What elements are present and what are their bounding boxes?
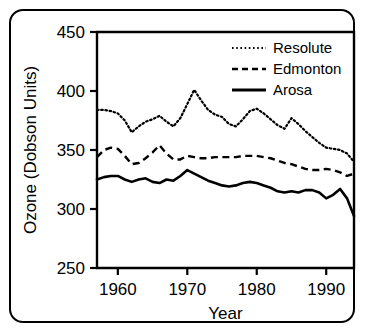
y-axis-tick-label: 400 [57, 82, 85, 101]
legend-label-resolute: Resolute [273, 39, 332, 56]
series-line-resolute [97, 90, 354, 162]
y-axis-title: Ozone (Dobson Units) [21, 66, 40, 234]
x-axis-tick-label: 1990 [307, 280, 345, 299]
x-axis-tick-label: 1960 [99, 280, 137, 299]
y-axis-tick-label: 450 [57, 23, 85, 42]
ozone-trend-chart: 2503003504004501960197019801990YearOzone… [0, 0, 366, 336]
series-line-arosa [97, 170, 354, 216]
y-axis-tick-label: 350 [57, 141, 85, 160]
x-axis-title: Year [208, 304, 243, 323]
legend-label-edmonton: Edmonton [273, 60, 341, 77]
y-axis-tick-label: 300 [57, 200, 85, 219]
x-axis-tick-label: 1980 [238, 280, 276, 299]
series-line-edmonton [97, 145, 354, 176]
legend-label-arosa: Arosa [273, 81, 313, 98]
chart-plot-area: 2503003504004501960197019801990YearOzone… [0, 0, 366, 336]
x-axis-tick-label: 1970 [168, 280, 206, 299]
y-axis-tick-label: 250 [57, 259, 85, 278]
